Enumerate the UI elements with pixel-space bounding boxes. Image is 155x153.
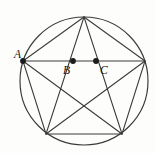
point-dot-b	[70, 58, 76, 64]
pentagon-edge	[23, 17, 84, 61]
circumcircle	[20, 17, 148, 145]
label-c: C	[100, 64, 108, 76]
pentagram-edges-group	[23, 17, 145, 134]
geometry-figure: A B C	[0, 0, 155, 153]
pentagram-chord	[46, 61, 145, 134]
label-a: A	[13, 48, 22, 60]
point-dot-c	[93, 58, 99, 64]
pentagon-edge	[122, 61, 145, 134]
pentagon-edges-group	[23, 17, 145, 134]
geometry-canvas: A B C	[0, 0, 155, 153]
label-b: B	[63, 64, 70, 76]
pentagon-edge	[23, 61, 46, 134]
pentagon-edge	[84, 17, 145, 61]
